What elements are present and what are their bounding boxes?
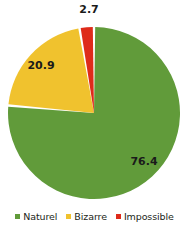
pie-chart: 76.4 20.9 2.7 Naturel Bizarre Impossible (0, 0, 189, 229)
slice-label-naturel: 76.4 (130, 155, 157, 168)
legend-label-impossible: Impossible (124, 211, 174, 222)
legend-label-naturel: Naturel (23, 211, 57, 222)
slice-label-impossible: 2.7 (79, 3, 99, 16)
legend-item-bizarre[interactable]: Bizarre (66, 211, 107, 222)
legend-swatch-naturel-icon (15, 214, 20, 219)
legend-swatch-bizarre-icon (66, 214, 71, 219)
pie-svg: 76.4 20.9 2.7 (0, 0, 189, 203)
legend-label-bizarre: Bizarre (74, 211, 107, 222)
legend-swatch-impossible-icon (116, 214, 121, 219)
slice-label-bizarre: 20.9 (27, 59, 54, 72)
legend-item-impossible[interactable]: Impossible (116, 211, 174, 222)
pie-slices-group (8, 27, 180, 199)
legend-item-naturel[interactable]: Naturel (15, 211, 57, 222)
chart-legend: Naturel Bizarre Impossible (0, 206, 189, 226)
pie-plot-area: 76.4 20.9 2.7 (0, 0, 189, 203)
